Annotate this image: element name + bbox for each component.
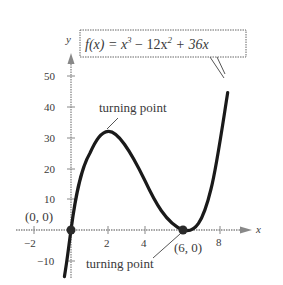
- origin-point-label: (0, 0): [25, 209, 53, 224]
- turning-point-max-leader: [107, 118, 118, 129]
- turning-point-min-label: turning point: [86, 256, 154, 271]
- turning-point-max-label: turning point: [99, 100, 167, 115]
- y-axis-label: y: [65, 33, 71, 45]
- function-label: f(x) = x3 − 12x2 + 36x: [85, 35, 209, 53]
- y-tick-label: −10: [37, 255, 55, 267]
- min-point: [179, 226, 188, 235]
- x-axis-label: x: [255, 223, 261, 235]
- x-axis: [16, 226, 252, 234]
- function-graph: −2 2 4 8 x 50 40 30 20 10 −10 y (0, 0) (…: [0, 0, 283, 285]
- x-tick-label: 8: [216, 236, 222, 248]
- x-tick-label: 2: [104, 237, 110, 249]
- min-point-label: (6, 0): [174, 240, 202, 255]
- function-curve: [64, 93, 227, 277]
- x-tick-label: 4: [141, 237, 147, 249]
- y-tick-label: 30: [44, 132, 56, 144]
- y-tick-label: 40: [44, 101, 56, 113]
- y-tick-label: 50: [44, 70, 56, 82]
- y-tick-label: 10: [44, 193, 56, 205]
- origin-point: [67, 226, 76, 235]
- y-tick-label: 20: [44, 163, 56, 175]
- x-tick-label: −2: [24, 237, 36, 249]
- function-label-box: f(x) = x3 − 12x2 + 36x: [80, 30, 246, 78]
